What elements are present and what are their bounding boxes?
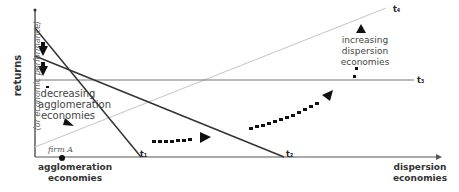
increasing-annotation: increasing dispersion economies — [335, 35, 395, 68]
decreasing-annotation: decreasing agglomeration economies — [38, 88, 98, 121]
t1-label: t₁ — [140, 149, 147, 160]
x-axis-left-label: agglomeration economies — [30, 162, 120, 184]
t2-label: t₂ — [286, 149, 293, 160]
dotted-arrow-icon — [152, 132, 211, 143]
t3-label: t₃ — [417, 75, 424, 86]
dotted-arrow-icon — [249, 90, 333, 130]
y-axis-label: returns — [12, 31, 23, 121]
x-axis-right-label: dispersion economies — [390, 162, 450, 184]
firm-a-label: firm A — [48, 144, 73, 155]
firm-a-marker — [59, 155, 65, 161]
t4-label: t₄ — [393, 4, 400, 15]
